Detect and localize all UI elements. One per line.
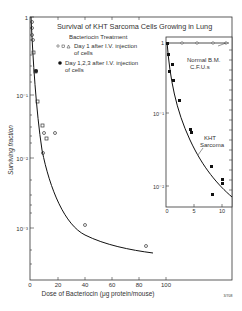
inset-label-kht1: KHT — [204, 135, 216, 141]
legend-label-2b: of cells — [65, 67, 84, 73]
x-tick-label-20: 20 — [55, 282, 62, 288]
inset-y-tick-2: 10⁻¹ — [153, 111, 164, 117]
figure: Survival of KHT Sarcoma Cells Growing in… — [0, 0, 242, 311]
figure-id: 3/708 — [224, 294, 233, 298]
x-ticks — [58, 17, 166, 280]
inset-x-tick-5: 5 — [192, 208, 195, 214]
x-tick-label-60: 60 — [109, 282, 116, 288]
y-axis-label: Surviving fraction — [7, 125, 15, 175]
x-axis-label: Dose of Bacteriocin (μg protein/mouse) — [42, 290, 155, 298]
inset-label-bm1: Normal B.M. — [187, 57, 221, 63]
inset-label-bm2: C.F.U.s — [190, 64, 210, 70]
inset-y-tick-3: 10⁻² — [153, 184, 164, 190]
y-tick-label-1: 1 — [25, 15, 29, 21]
x-tick-label-40: 40 — [82, 282, 89, 288]
y-tick-label-2: 10⁻¹ — [16, 93, 28, 99]
data-points-filled — [34, 69, 38, 73]
x-tick-label-80: 80 — [136, 282, 143, 288]
inset-x-tick-10: 10 — [219, 208, 225, 214]
inset-x-tick-0: 0 — [165, 208, 168, 214]
y-tick-label-4: 10⁻³ — [16, 226, 28, 232]
legend-label-2a: Day 1,2,3 after I.V. injection — [65, 60, 138, 66]
legend-label-1b: of cells — [74, 50, 93, 56]
chart-subtitle: Bacteriocin Treatment — [69, 34, 128, 40]
legend-label-1a: Day 1 after I.V. injection — [74, 43, 137, 49]
x-tick-label-0: 0 — [28, 282, 32, 288]
inset-label-kht2: Sarcoma — [200, 142, 225, 148]
x-tick-label-100: 100 — [161, 282, 172, 288]
inset-y-tick-1: 1 — [161, 40, 164, 46]
y-tick-label-3: 10⁻² — [16, 156, 28, 162]
legend: Day 1 after I.V. injection of cells Day … — [57, 43, 138, 73]
chart-title: Survival of KHT Sarcoma Cells Growing in… — [57, 22, 212, 31]
